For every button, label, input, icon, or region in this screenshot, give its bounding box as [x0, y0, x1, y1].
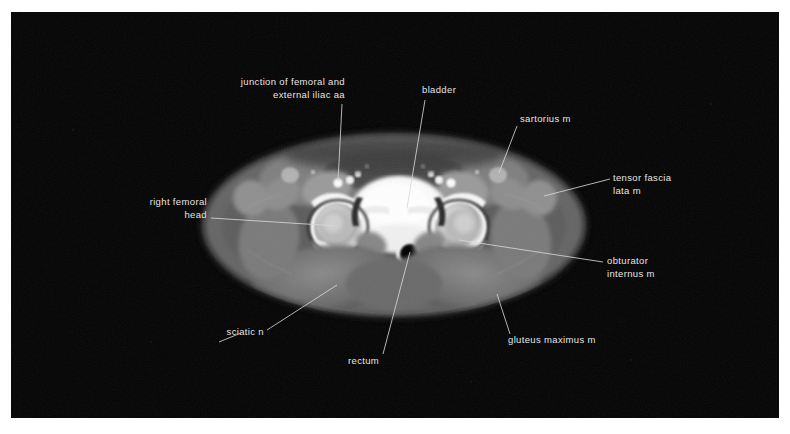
anno-label-line: lata m	[613, 185, 671, 198]
anno-label-line: obturator	[607, 255, 655, 268]
anno-label-sartorius-m[interactable]: sartorius m	[520, 113, 571, 126]
anno-label-line: tensor fascia	[613, 172, 671, 185]
anno-label-line: sartorius m	[520, 113, 571, 126]
anno-label-junction-femoral-external-iliac-aa[interactable]: junction of femoral andexternal iliac aa	[241, 76, 345, 101]
figure-page: junction of femoral andexternal iliac aa…	[0, 0, 790, 434]
anno-label-right-femoral-head[interactable]: right femoralhead	[150, 196, 207, 221]
anno-label-line: rectum	[348, 355, 379, 368]
anno-label-line: bladder	[422, 84, 456, 97]
anno-label-line: sciatic n	[227, 326, 264, 339]
ct-figure-plate: junction of femoral andexternal iliac aa…	[11, 12, 779, 418]
anno-label-obturator-internus-m[interactable]: obturatorinternus m	[607, 255, 655, 280]
anno-label-line: external iliac aa	[241, 89, 345, 102]
anno-label-line: gluteus maximus m	[508, 334, 596, 347]
anno-label-bladder[interactable]: bladder	[422, 84, 456, 97]
anno-label-line: junction of femoral and	[241, 76, 345, 89]
anno-label-line: internus m	[607, 268, 655, 281]
anno-label-sciatic-n[interactable]: sciatic n	[227, 326, 264, 339]
ct-axial-pelvis-image	[11, 12, 779, 418]
anno-label-line: head	[150, 209, 207, 222]
anno-label-gluteus-maximus-m[interactable]: gluteus maximus m	[508, 334, 596, 347]
anno-label-tensor-fascia-lata-m[interactable]: tensor fascialata m	[613, 172, 671, 197]
anno-label-rectum[interactable]: rectum	[348, 355, 379, 368]
anno-label-line: right femoral	[150, 196, 207, 209]
